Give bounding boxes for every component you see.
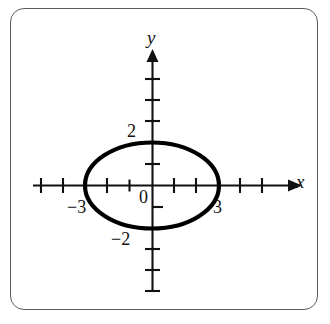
y-axis-arrow [147, 49, 159, 62]
x-tick-label-3: 3 [213, 198, 222, 216]
coordinate-plane [0, 0, 330, 324]
graph-figure: y x 0 2 −2 3 −3 [0, 0, 330, 324]
x-axis-label: x [296, 172, 304, 191]
y-tick-label-neg2: −2 [111, 230, 130, 248]
x-tick-label-neg3: −3 [67, 198, 86, 216]
y-axis-label: y [147, 28, 155, 47]
y-axis [145, 49, 163, 292]
origin-label: 0 [139, 188, 148, 206]
y-tick-label-2: 2 [127, 122, 136, 140]
x-axis [33, 178, 302, 193]
